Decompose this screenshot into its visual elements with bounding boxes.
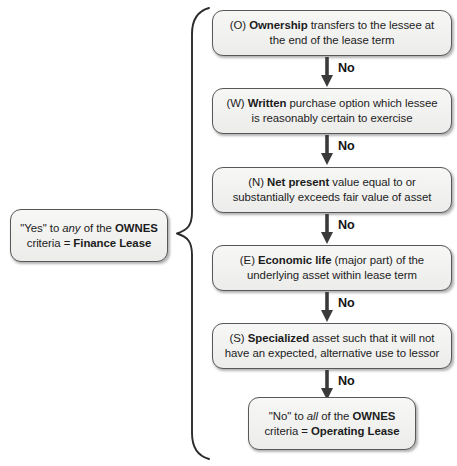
finance-lease-summary-text: "Yes" to any of the OWNEScriteria = Fina… xyxy=(20,221,158,250)
arrow-label-no-net-present: No xyxy=(338,218,355,233)
criterion-text-net-present: (N) Net present value equal to orsubstan… xyxy=(233,175,432,204)
arrow-label-no-economic-life: No xyxy=(338,296,355,311)
arrow-no-economic-life: No xyxy=(320,292,360,326)
operating-lease-result-text: "No" to all of the OWNEScriteria = Opera… xyxy=(264,409,399,438)
grouping-brace-icon xyxy=(176,6,210,461)
arrow-label-no-specialized: No xyxy=(338,374,355,389)
arrow-no-net-present: No xyxy=(320,214,360,248)
criterion-text-economic-life: (E) Economic life (major part) of theund… xyxy=(240,253,424,282)
arrow-label-no-ownership: No xyxy=(338,61,355,76)
arrow-label-no-written: No xyxy=(338,139,355,154)
criterion-box-net-present: (N) Net present value equal to orsubstan… xyxy=(212,167,452,213)
criterion-text-written: (W) Written purchase option which lessee… xyxy=(226,96,437,125)
criterion-box-written: (W) Written purchase option which lessee… xyxy=(212,88,452,134)
operating-lease-result-box: "No" to all of the OWNEScriteria = Opera… xyxy=(248,397,416,450)
finance-lease-summary-box: "Yes" to any of the OWNEScriteria = Fina… xyxy=(10,209,168,262)
criterion-text-ownership: (O) Ownership transfers to the lessee at… xyxy=(230,18,434,47)
arrow-no-ownership: No xyxy=(320,57,360,91)
criterion-box-specialized: (S) Specialized asset such that it will … xyxy=(212,323,452,369)
arrow-no-written: No xyxy=(320,135,360,169)
criterion-box-ownership: (O) Ownership transfers to the lessee at… xyxy=(212,10,452,56)
criterion-box-economic-life: (E) Economic life (major part) of theund… xyxy=(212,245,452,291)
clipped-top-text xyxy=(0,0,457,5)
flowchart-canvas: "Yes" to any of the OWNEScriteria = Fina… xyxy=(0,0,457,466)
criterion-text-specialized: (S) Specialized asset such that it will … xyxy=(225,331,439,360)
